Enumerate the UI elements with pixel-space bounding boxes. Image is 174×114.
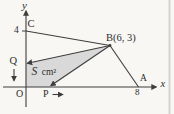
point-a-label: A bbox=[140, 74, 147, 84]
y-axis-label: y bbox=[22, 0, 27, 11]
segment-ba bbox=[110, 46, 139, 88]
point-q-label: Q bbox=[10, 56, 18, 67]
origin-label: O bbox=[16, 89, 23, 99]
x-axis-label: x bbox=[161, 79, 166, 90]
y-tick-4-label: 4 bbox=[14, 26, 19, 36]
area-unit: cm² bbox=[42, 67, 56, 77]
point-b-label: B(6, 3) bbox=[106, 33, 136, 44]
area-symbol: S bbox=[32, 65, 38, 77]
figure-canvas bbox=[0, 0, 174, 114]
point-c-label: C bbox=[28, 19, 35, 30]
area-label: S cm² bbox=[32, 66, 57, 78]
x-tick-8-label: 8 bbox=[135, 88, 140, 97]
point-b-dot bbox=[109, 44, 112, 47]
segment-cb bbox=[26, 31, 110, 46]
point-p-label: P bbox=[43, 89, 49, 99]
geometry-figure: y C 4 B(6, 3) Q S cm² O P A 8 x bbox=[0, 0, 174, 114]
